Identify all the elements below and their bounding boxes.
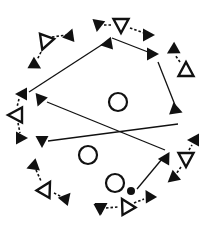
movement-line [36, 170, 41, 181]
cone-circle-icon [109, 93, 127, 111]
player-triangle-icon [8, 108, 22, 123]
arrowhead-icon [143, 29, 155, 42]
arrowhead-icon [24, 158, 40, 174]
movement-line [18, 123, 20, 133]
movement-line [176, 167, 181, 174]
movement-line [130, 28, 144, 33]
arrowhead-icon [147, 48, 159, 61]
player-triangle-icon [179, 153, 194, 167]
cones [79, 93, 127, 192]
arrowhead-icon [15, 88, 27, 101]
arrowhead-icon [99, 37, 113, 52]
movement-line [54, 193, 62, 197]
arrowhead-icon [58, 188, 76, 206]
arrowhead-icon [62, 26, 78, 42]
pass-line [47, 102, 165, 150]
arrowhead-icon [16, 132, 28, 145]
movement-line [17, 99, 19, 107]
pass-line [48, 124, 178, 141]
cone-circle-icon [79, 146, 97, 164]
player-triangle-icon [179, 62, 194, 76]
pass-line [137, 159, 162, 189]
arrowhead-icon [31, 93, 47, 109]
arrowhead-icon [90, 19, 105, 33]
ball [127, 187, 135, 195]
movement-line [106, 207, 118, 208]
player-triangle-icon [114, 19, 129, 33]
movement-line [37, 52, 41, 60]
ball-icon [127, 187, 135, 195]
cone-circle-icon [106, 174, 124, 192]
pass-lines [29, 38, 178, 189]
player-triangle-icon [35, 34, 54, 52]
movement-line [189, 145, 192, 150]
pass-line [112, 38, 148, 52]
player-triangle-icon [116, 195, 136, 215]
pass-line [158, 62, 175, 105]
arrowhead-icon [164, 42, 181, 59]
arrowhead-icon [187, 134, 199, 147]
arrowhead-icon [169, 102, 185, 118]
players [8, 19, 194, 215]
arrowhead-icon [140, 187, 157, 204]
movement-line [175, 55, 180, 62]
movement-line [134, 199, 144, 203]
movement-lines [17, 25, 192, 208]
arrowhead-icon [163, 170, 181, 188]
arrowhead-icon [36, 136, 49, 148]
drill-diagram: Circular passing drill [0, 0, 212, 232]
player-triangle-icon [37, 178, 57, 198]
arrowhead-icon [158, 149, 175, 166]
arrowhead-icon [27, 57, 44, 74]
